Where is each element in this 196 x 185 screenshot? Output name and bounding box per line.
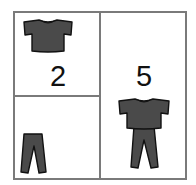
outfit-count-label: 5 <box>136 62 152 91</box>
shirt-icon <box>22 18 74 54</box>
pants-icon <box>19 132 49 174</box>
horizontal-divider <box>13 95 101 97</box>
shirt-count-label: 2 <box>50 62 66 91</box>
outfit-icon <box>117 96 171 170</box>
